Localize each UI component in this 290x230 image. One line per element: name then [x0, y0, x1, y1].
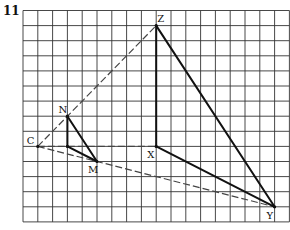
label-N: N: [58, 104, 67, 115]
vertex-labels: CNMXZY: [27, 13, 274, 221]
label-X: X: [147, 149, 155, 160]
label-M: M: [88, 164, 98, 175]
point-Q: [66, 145, 69, 148]
label-Z: Z: [157, 13, 164, 24]
point-Y: [273, 205, 276, 208]
label-Y: Y: [266, 210, 274, 221]
enlargement-diagram: CNMXZY: [0, 0, 290, 230]
point-Z: [155, 24, 158, 27]
point-X: [155, 145, 158, 148]
label-C: C: [27, 135, 35, 146]
point-C: [36, 145, 39, 148]
